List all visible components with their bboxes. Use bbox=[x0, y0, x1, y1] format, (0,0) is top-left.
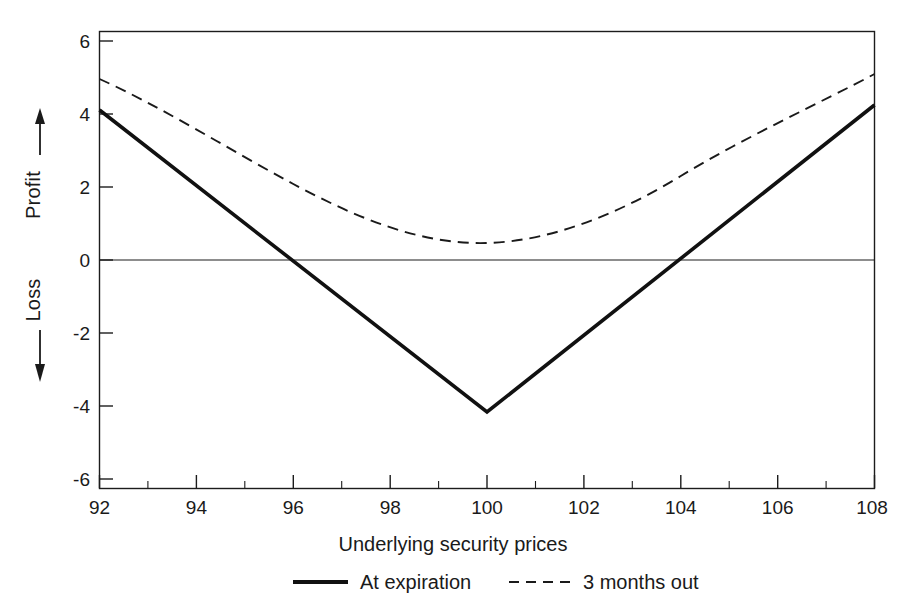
chart-legend: At expiration 3 months out bbox=[293, 571, 699, 593]
y-axis-loss-label-group: Loss bbox=[22, 278, 45, 382]
x-tick-label-94: 94 bbox=[186, 497, 208, 518]
x-tick-label-102: 102 bbox=[568, 497, 600, 518]
y-tick-label-0: 0 bbox=[79, 250, 90, 271]
y-axis-profit-label-group: Profit bbox=[22, 108, 45, 219]
x-tick-label-106: 106 bbox=[762, 497, 794, 518]
loss-arrow-head-icon bbox=[35, 364, 45, 382]
y-tick-label-4: 4 bbox=[79, 104, 90, 125]
y-tick-label-2: 2 bbox=[79, 177, 90, 198]
chart-container: 6 4 2 0 -2 -4 -6 bbox=[0, 0, 907, 613]
y-axis-loss-label: Loss bbox=[22, 278, 44, 321]
y-tick-label-neg6: -6 bbox=[73, 469, 90, 490]
y-tick-label-neg2: -2 bbox=[73, 323, 90, 344]
y-axis-ticks bbox=[100, 41, 114, 479]
y-tick-labels: 6 4 2 0 -2 -4 -6 bbox=[73, 31, 90, 490]
series-at-expiration bbox=[100, 105, 875, 412]
x-tick-label-104: 104 bbox=[665, 497, 697, 518]
x-axis-ticks bbox=[100, 475, 875, 488]
profit-arrow-head-icon bbox=[35, 108, 45, 124]
x-axis-title: Underlying security prices bbox=[339, 533, 568, 555]
legend-label-at-expiration: At expiration bbox=[360, 571, 471, 593]
series-3-months-out bbox=[100, 74, 875, 243]
x-tick-label-108: 108 bbox=[856, 497, 888, 518]
x-tick-labels: 92 94 96 98 100 102 104 106 108 bbox=[89, 497, 888, 518]
x-tick-label-96: 96 bbox=[283, 497, 304, 518]
legend-label-3-months-out: 3 months out bbox=[583, 571, 699, 593]
x-tick-label-100: 100 bbox=[471, 497, 503, 518]
y-axis-profit-label: Profit bbox=[22, 171, 44, 219]
x-tick-label-98: 98 bbox=[380, 497, 401, 518]
y-tick-label-6: 6 bbox=[79, 31, 90, 52]
y-tick-label-neg4: -4 bbox=[73, 396, 90, 417]
x-tick-label-92: 92 bbox=[89, 497, 110, 518]
payoff-chart: 6 4 2 0 -2 -4 -6 bbox=[0, 0, 907, 613]
